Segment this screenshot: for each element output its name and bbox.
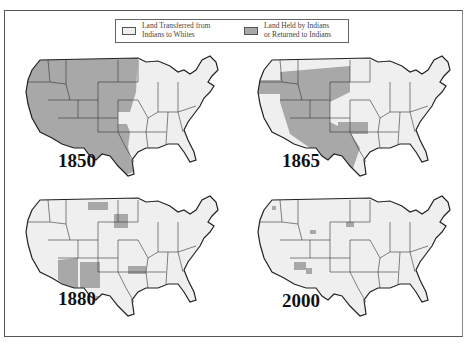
legend-swatch-held [244,27,258,35]
us-map-1880 [18,192,233,327]
legend-item-transferred: Land Transferred from Indians to Whites [122,22,210,39]
map-1880 [18,192,233,327]
year-label-1865: 1865 [282,150,320,172]
us-map-1850 [18,52,233,187]
year-label-2000: 2000 [282,290,320,312]
legend-label-transferred: Land Transferred from Indians to Whites [142,22,210,39]
legend-swatch-transferred [122,27,136,35]
year-label-1850: 1850 [58,150,96,172]
map-legend: Land Transferred from Indians to Whites … [115,19,349,43]
legend-item-held: Land Held by Indians or Returned to Indi… [244,22,331,39]
legend-label-held: Land Held by Indians or Returned to Indi… [264,22,331,39]
map-1850 [18,52,233,187]
year-label-1880: 1880 [58,288,96,310]
